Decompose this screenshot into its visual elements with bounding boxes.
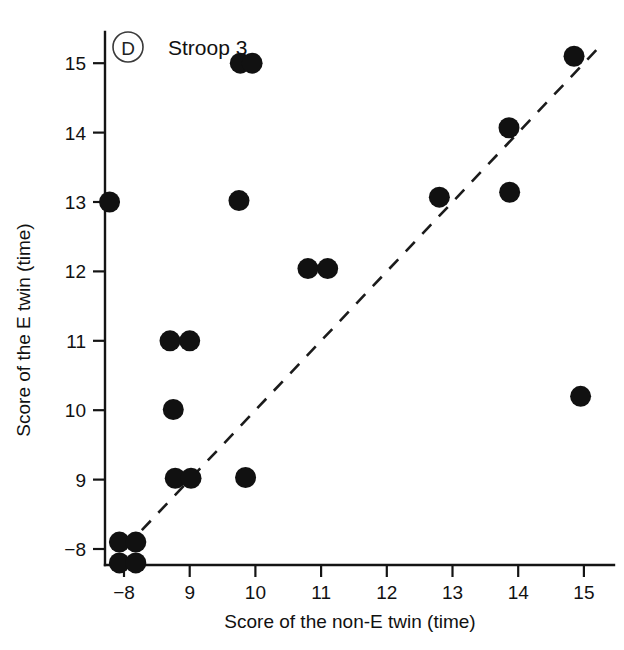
x-tick-label: 12	[376, 582, 397, 603]
x-axis-label: Score of the non-E twin (time)	[224, 611, 475, 632]
data-point	[163, 399, 184, 420]
y-tick-label: 15	[65, 53, 86, 74]
data-point	[159, 330, 180, 351]
x-tick-label: 10	[245, 582, 266, 603]
y-tick-label: 13	[65, 192, 86, 213]
chart-title: Stroop 3	[168, 36, 247, 59]
x-tick-label: −8	[113, 582, 135, 603]
x-tick-label: 9	[184, 582, 195, 603]
plot-canvas: −89101112131415−89101112131415 D Stroop …	[0, 0, 624, 650]
data-point	[181, 468, 202, 489]
data-point	[499, 117, 520, 138]
data-point	[499, 182, 520, 203]
data-point	[228, 190, 249, 211]
data-point	[570, 386, 591, 407]
data-point	[297, 258, 318, 279]
y-tick-label: −8	[64, 539, 86, 560]
y-tick-label: 12	[65, 261, 86, 282]
y-tick-label: 10	[65, 400, 86, 421]
data-point	[179, 330, 200, 351]
x-tick-label: 13	[442, 582, 463, 603]
y-tick-label: 14	[65, 123, 87, 144]
data-point	[125, 552, 146, 573]
data-point	[429, 187, 450, 208]
x-tick-label: 15	[573, 582, 594, 603]
y-tick-label: 11	[66, 331, 86, 352]
data-point	[99, 192, 120, 213]
data-point	[317, 258, 338, 279]
y-axis-label: Score of the E twin (time)	[13, 223, 34, 436]
y-tick-label: 9	[75, 470, 86, 491]
panel-label-badge: D	[113, 32, 143, 62]
data-points	[99, 46, 591, 574]
scatter-plot-figure: −89101112131415−89101112131415 D Stroop …	[0, 0, 624, 650]
data-point	[235, 467, 256, 488]
panel-label-letter: D	[121, 38, 135, 59]
data-point	[564, 46, 585, 67]
x-tick-label: 14	[508, 582, 530, 603]
data-point	[125, 532, 146, 553]
x-tick-label: 11	[311, 582, 331, 603]
